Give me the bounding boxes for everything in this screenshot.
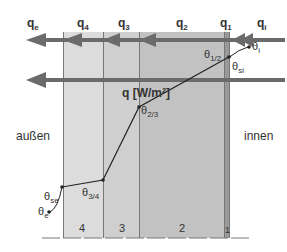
flux-label-q2: q2 (176, 16, 188, 32)
layer-3-number: 3 (119, 222, 125, 234)
theta-34-label: θ3/4 (82, 186, 99, 201)
theta-23-label: θ2/3 (141, 104, 158, 119)
outside-label: außen (16, 129, 50, 143)
flux-label-qi: qi (257, 16, 267, 32)
flux-label-q1: q1 (220, 16, 232, 32)
theta-12-label: θ1/2 (204, 48, 221, 63)
layer-2-number: 2 (179, 222, 185, 234)
temperature-profile (62, 56, 231, 187)
flux-label-q3: q3 (118, 16, 130, 32)
layer-1-number: 1 (225, 225, 230, 235)
flux-label-q4: q4 (77, 16, 89, 32)
flux-arrows (26, 33, 285, 47)
theta-e-label: θe (38, 205, 49, 220)
layer-4-number: 4 (79, 222, 85, 234)
theta-se-label: θse (44, 190, 59, 205)
flux-label-qe: qe (27, 16, 39, 32)
heat-flux-label: q [W/m²] (122, 86, 170, 100)
theta-si-label: θsi (232, 60, 244, 75)
theta-i-label: θi (252, 40, 260, 55)
inside-label: innen (244, 129, 273, 143)
